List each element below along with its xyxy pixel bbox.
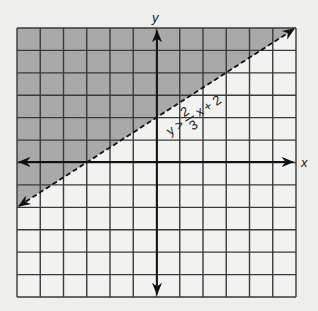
coordinate-plane: y x y > 2 3 x + 2: [0, 0, 318, 311]
y-axis-label: y: [151, 10, 160, 25]
x-axis-label: x: [300, 155, 308, 170]
